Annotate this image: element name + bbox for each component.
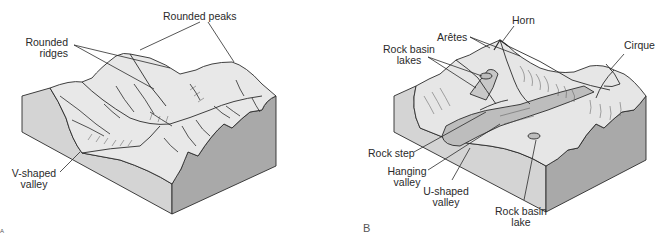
label-rounded-peaks: Rounded peaks: [163, 11, 237, 22]
label-u-shaped-valley-2: valley: [418, 197, 474, 208]
landform-diagram: [0, 0, 659, 241]
label-rock-step: Rock step: [368, 148, 415, 159]
label-aretes: Arêtes: [437, 32, 467, 43]
label-rock-basin-lake-2: lake: [488, 217, 554, 228]
label-rock-basin-lakes-2: lakes: [376, 55, 442, 66]
label-v-shaped-valley-2: valley: [4, 179, 64, 190]
label-cirque: Cirque: [624, 40, 655, 51]
panel-b-letter: B: [363, 222, 370, 234]
panel-a-letter: A: [0, 228, 4, 234]
label-horn: Horn: [512, 15, 535, 26]
label-rounded-ridges-2: ridges: [14, 48, 68, 59]
